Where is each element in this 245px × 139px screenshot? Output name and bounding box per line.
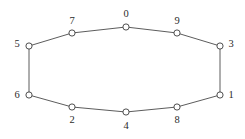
graph-node-7[interactable] [69, 30, 75, 36]
graph-node-0[interactable] [123, 24, 129, 30]
graph-edge-7-5 [29, 33, 72, 46]
graph-node-1[interactable] [217, 92, 223, 98]
graph-edge-2-4 [72, 107, 126, 112]
node-label-5: 5 [14, 39, 19, 50]
cycle-graph-figure: 0795361284 [0, 0, 245, 139]
node-label-2: 2 [69, 115, 74, 126]
graph-canvas [0, 0, 245, 139]
graph-node-5[interactable] [26, 43, 32, 49]
graph-node-2[interactable] [69, 104, 75, 110]
graph-node-6[interactable] [26, 92, 32, 98]
node-label-8: 8 [174, 115, 179, 126]
node-label-4: 4 [123, 121, 128, 132]
graph-node-9[interactable] [174, 30, 180, 36]
graph-node-4[interactable] [123, 109, 129, 115]
node-label-0: 0 [123, 9, 128, 20]
node-label-3: 3 [228, 39, 233, 50]
edge-layer [29, 27, 220, 112]
node-label-7: 7 [69, 16, 74, 27]
graph-edge-8-1 [177, 95, 220, 107]
graph-edge-0-7 [72, 27, 126, 33]
node-label-1: 1 [228, 90, 233, 101]
graph-edge-6-2 [29, 95, 72, 107]
node-label-9: 9 [174, 16, 179, 27]
graph-edge-9-0 [126, 27, 177, 33]
graph-edge-4-8 [126, 107, 177, 112]
graph-node-3[interactable] [217, 43, 223, 49]
graph-node-8[interactable] [174, 104, 180, 110]
node-label-6: 6 [14, 90, 19, 101]
graph-edge-3-9 [177, 33, 220, 46]
